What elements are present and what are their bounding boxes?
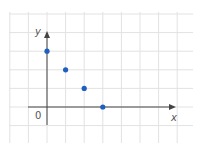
data-point bbox=[44, 49, 49, 54]
axes bbox=[28, 31, 176, 125]
y-axis-label: y bbox=[34, 26, 42, 37]
x-axis-label: x bbox=[170, 112, 177, 123]
data-point bbox=[63, 67, 68, 72]
scatter-chart: x y 0 bbox=[0, 0, 199, 151]
origin-label: 0 bbox=[35, 110, 41, 121]
data-point bbox=[82, 86, 87, 91]
data-point bbox=[100, 104, 105, 109]
x-axis-arrow-icon bbox=[169, 104, 176, 110]
y-axis-arrow-icon bbox=[44, 31, 50, 38]
data-points bbox=[44, 49, 105, 110]
